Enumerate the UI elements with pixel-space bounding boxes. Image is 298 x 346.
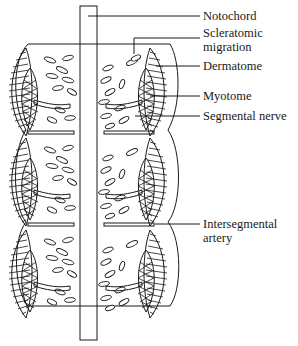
somite-1	[9, 48, 167, 136]
somite-2	[9, 138, 167, 226]
label-dermatome: Dermatome	[203, 59, 262, 73]
notochord	[80, 6, 97, 340]
label-myotome: Myotome	[203, 89, 252, 103]
somite-diagram: Notochord Scleratomicmigration Dermatome…	[0, 0, 298, 346]
intersegmental-arteries	[28, 131, 154, 226]
label-notochord: Notochord	[203, 9, 257, 23]
label-intersegmental-artery: Intersegmentalartery	[203, 217, 278, 245]
label-scleratomic-migration: Scleratomicmigration	[203, 26, 263, 54]
labels: Notochord Scleratomicmigration Dermatome…	[203, 9, 287, 245]
migrating-cell	[130, 54, 141, 62]
label-segmental-nerve: Segmental nerve	[203, 109, 287, 123]
somite-3	[9, 230, 167, 318]
